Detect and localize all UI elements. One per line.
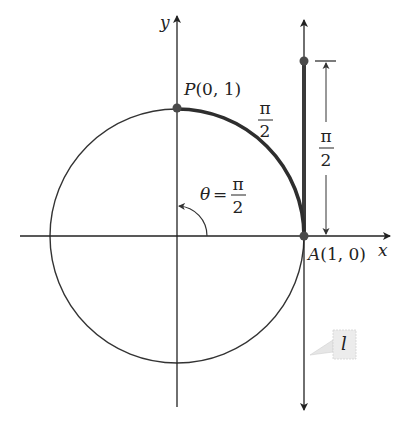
svg-text:π: π: [232, 174, 243, 194]
svg-text:2: 2: [260, 121, 271, 141]
unit-circle-diagram: y x P(0, 1) A(1, 0) π 2 π 2 θ = π 2 l: [0, 0, 417, 421]
tangent-line-label: l: [341, 333, 347, 354]
point-tangent-top: [300, 57, 309, 66]
y-axis-label: y: [159, 12, 170, 32]
point-A: [300, 232, 309, 241]
angle-arc: [179, 206, 207, 236]
svg-text:π: π: [320, 126, 331, 146]
svg-text:2: 2: [233, 197, 244, 217]
svg-text:2: 2: [321, 150, 332, 170]
svg-text:θ: θ: [200, 184, 210, 204]
svg-text:=: =: [213, 184, 227, 204]
tangent-label-callout: [310, 330, 356, 359]
angle-label: θ = π 2: [200, 174, 246, 217]
point-A-label: A(1, 0): [306, 244, 366, 264]
arc-length-label: π 2: [258, 98, 273, 141]
svg-text:π: π: [259, 98, 270, 118]
x-axis-label: x: [378, 240, 388, 260]
point-P: [173, 104, 182, 113]
point-P-label: P(0, 1): [183, 79, 241, 99]
tangent-length-label: π 2: [319, 126, 334, 170]
